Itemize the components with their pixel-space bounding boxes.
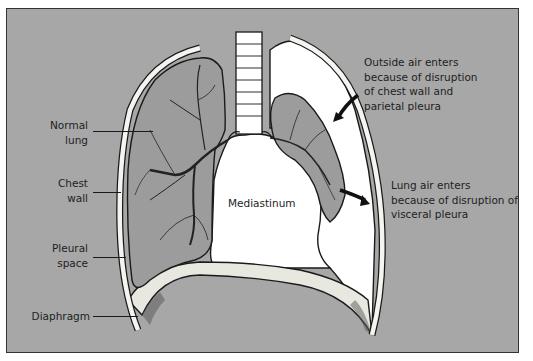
label-line: lung <box>40 133 88 148</box>
label-line: Chest <box>40 176 88 191</box>
label-line: because of disruption of <box>391 193 518 208</box>
label-line: wall <box>40 191 88 206</box>
leader-pleural-space <box>93 257 126 258</box>
label-lung-air: Lung air enters because of disruption of… <box>391 178 518 222</box>
label-line: Lung air enters <box>391 178 518 193</box>
label-line: Mediastinum <box>228 196 296 211</box>
leader-normal-lung <box>93 131 153 132</box>
label-line: space <box>40 256 88 271</box>
trachea <box>228 32 272 140</box>
label-line: visceral pleura <box>391 207 518 222</box>
label-outside-air: Outside air enters because of disruption… <box>364 55 478 113</box>
label-line: of chest wall and <box>364 84 478 99</box>
label-line: Normal <box>40 118 88 133</box>
label-line: parietal pleura <box>364 99 478 114</box>
label-mediastinum: Mediastinum <box>228 196 296 211</box>
leader-chest-wall <box>93 192 121 193</box>
label-line: because of disruption <box>364 70 478 85</box>
label-normal-lung: Normal lung <box>40 118 88 147</box>
label-line: Pleural <box>40 241 88 256</box>
label-pleural-space: Pleural space <box>40 241 88 270</box>
leader-diaphragm <box>93 316 138 317</box>
label-diaphragm: Diaphragm <box>20 309 90 324</box>
label-line: Diaphragm <box>20 309 90 324</box>
label-chest-wall: Chest wall <box>40 176 88 205</box>
label-line: Outside air enters <box>364 55 478 70</box>
